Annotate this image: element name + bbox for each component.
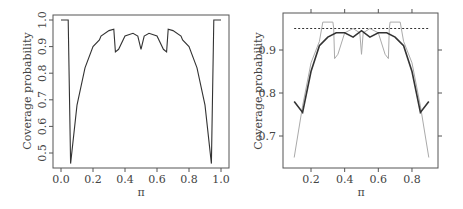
left-coverage-line <box>61 20 221 164</box>
right-y-axis: 0.70.80.9 <box>259 44 443 143</box>
left-y-axis: 0.50.60.70.80.91.0 <box>36 11 53 162</box>
left-x-tick-label: 1.0 <box>212 173 230 186</box>
right-x-axis-label: π <box>357 186 364 199</box>
left-x-tick-label: 0.6 <box>148 173 166 186</box>
left-x-tick-label: 0.0 <box>52 173 70 186</box>
right-x-tick-label: 0.2 <box>302 173 320 186</box>
chart-canvas: 0.50.60.70.80.91.0 0.00.20.40.60.81.0 π … <box>0 0 463 209</box>
left-y-tick-label: 0.8 <box>36 64 49 82</box>
right-chart-panel: 0.70.80.9 0.20.40.60.8 π Coverage probab… <box>252 9 442 199</box>
right-x-tick-label: 0.4 <box>336 173 354 186</box>
left-x-axis-label: π <box>137 186 144 199</box>
left-y-tick-label: 0.5 <box>36 144 49 162</box>
left-chart-panel: 0.50.60.70.80.91.0 0.00.20.40.60.81.0 π … <box>21 11 230 199</box>
right-smoothed-coverage-line <box>294 31 429 113</box>
right-exact-coverage-line <box>294 22 429 157</box>
left-y-tick-label: 1.0 <box>36 11 49 29</box>
right-y-axis-label: Coverage probability <box>252 32 265 150</box>
left-y-tick-label: 0.7 <box>36 91 49 109</box>
left-x-axis: 0.00.20.40.60.81.0 <box>52 168 230 186</box>
left-y-tick-label: 0.9 <box>36 38 49 56</box>
left-x-tick-label: 0.4 <box>116 173 134 186</box>
left-y-tick-label: 0.6 <box>36 118 49 135</box>
left-y-axis-label: Coverage probability <box>21 32 34 150</box>
right-x-tick-label: 0.8 <box>403 173 421 186</box>
left-x-tick-label: 0.2 <box>84 173 102 186</box>
left-x-tick-label: 0.8 <box>180 173 198 186</box>
right-x-tick-label: 0.6 <box>370 173 388 186</box>
